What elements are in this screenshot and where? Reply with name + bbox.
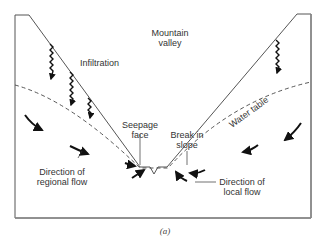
valley-groundwater-diagram: Mountain valley Infiltration Water table… [0, 0, 328, 238]
break-in-slope-label-line2: slope [176, 140, 198, 150]
figure-caption: (a) [160, 226, 171, 236]
mountain-valley-label-line2: valley [158, 38, 182, 48]
seepage-face-label: Seepage [122, 120, 158, 130]
mountain-valley-label: Mountain [151, 28, 188, 38]
local-flow-label: Direction of [219, 177, 265, 187]
regional-flow-arrow-icon [70, 146, 88, 154]
infiltration-arrow-icon [276, 40, 279, 73]
regional-flow-arrow-icon [243, 145, 258, 152]
regional-flow-arrow-icon [25, 115, 42, 130]
local-flow-arrow-icon [190, 170, 205, 173]
local-flow-label-line2: local flow [223, 187, 261, 197]
infiltration-label: Infiltration [80, 58, 119, 68]
regional-flow-label-line2: regional flow [37, 177, 88, 187]
regional-flow-label: Direction of [39, 167, 85, 177]
regional-flow-arrow-icon [132, 170, 144, 178]
infiltration-arrow-icon [50, 44, 53, 79]
break-in-slope-label: Break in [170, 130, 203, 140]
local-flow-arrow-icon [176, 172, 187, 181]
water-table-label: Water table [227, 95, 270, 130]
infiltration-arrow-icon [70, 72, 73, 105]
regional-flow-arrow-icon [125, 163, 135, 166]
seepage-face-label-line2: face [131, 130, 148, 140]
infiltration-arrows [50, 40, 279, 118]
regional-flow-arrow-icon [285, 123, 301, 140]
regional-flow-leader [78, 151, 82, 158]
infiltration-arrow-icon [88, 98, 91, 118]
water-table-line [15, 82, 311, 168]
